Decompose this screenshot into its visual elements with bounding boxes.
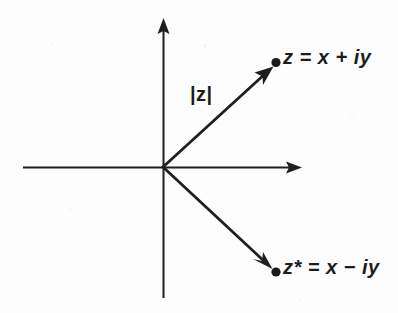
point-z-conjugate-dot [271,267,280,276]
vector-z-conjugate [163,167,281,277]
label-z: z = x + iy [283,46,371,69]
label-z-conjugate: z* = x − iy [283,256,380,279]
point-z-dot [271,58,280,67]
complex-plane-diagram: z = x + iy z* = x − iy |z| [0,0,398,313]
imaginary-axis [158,18,170,298]
label-modulus: |z| [190,83,213,106]
vector-z [163,58,281,167]
